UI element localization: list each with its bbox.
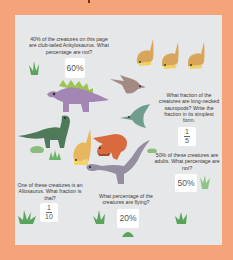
- answer-flying: 20%: [117, 209, 139, 228]
- answer-ankylosaurus: 60%: [65, 58, 85, 78]
- grass-icon: [175, 212, 189, 224]
- question-ankylosaurus: 40% of the creatures on this page are cl…: [28, 36, 110, 55]
- page-top-mark: [88, 0, 90, 3]
- grass-icon: [29, 61, 41, 75]
- ankylosaurus-icon: [158, 40, 182, 72]
- fraction-denominator: 10: [40, 213, 58, 221]
- rock-icon: [122, 229, 134, 237]
- sauropod-icon: [84, 140, 154, 186]
- grass-icon: [18, 210, 36, 224]
- fraction-denominator: 5: [178, 137, 196, 145]
- stegosaurus-icon: [45, 80, 111, 116]
- fraction-numerator: 1: [178, 127, 196, 136]
- grass-icon: [93, 210, 107, 224]
- pterodactyl-icon: [120, 104, 150, 130]
- answer-allosaurus: 1 10: [40, 203, 58, 222]
- pterodactyl-icon: [110, 75, 146, 97]
- question-sauropods: What fraction of the creatures are long-…: [158, 92, 220, 123]
- ankylosaurus-icon: [133, 37, 157, 69]
- fraction-numerator: 1: [40, 203, 58, 212]
- question-adults: 50% of these creatures are adults. What …: [152, 152, 222, 171]
- answer-adults: 50%: [175, 174, 197, 192]
- sauropod-icon: [18, 114, 74, 150]
- question-allosaurus: One of these creatures is an Allosaurus.…: [17, 182, 83, 201]
- ankylosaurus-icon: [184, 40, 208, 72]
- rock-icon: [30, 145, 44, 153]
- rock-icon: [147, 147, 157, 153]
- grass-icon: [200, 175, 210, 189]
- question-flying: What percentage of the creatures are fly…: [92, 193, 160, 206]
- answer-sauropods: 1 5: [178, 127, 196, 146]
- grass-icon: [49, 150, 61, 160]
